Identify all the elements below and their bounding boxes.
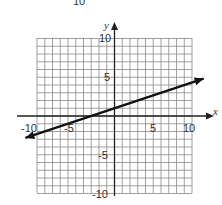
y-axis-arrow-icon [111, 22, 118, 30]
y-tick-5: 5 [104, 71, 110, 83]
y-tick-neg5: -5 [98, 149, 108, 161]
y-tick-neg10: -10 [92, 188, 108, 200]
x-tick-10: 10 [183, 122, 195, 134]
x-tick-neg10: -10 [21, 122, 37, 134]
x-axis-label: x [212, 105, 218, 117]
line-arrow-icon [194, 78, 204, 86]
y-tick-10: 10 [99, 32, 111, 44]
y-axis-label: y [103, 19, 109, 31]
x-tick-5: 5 [150, 122, 156, 134]
coordinate-plane: x y -10 -5 5 10 10 5 -5 -10 [0, 0, 222, 205]
